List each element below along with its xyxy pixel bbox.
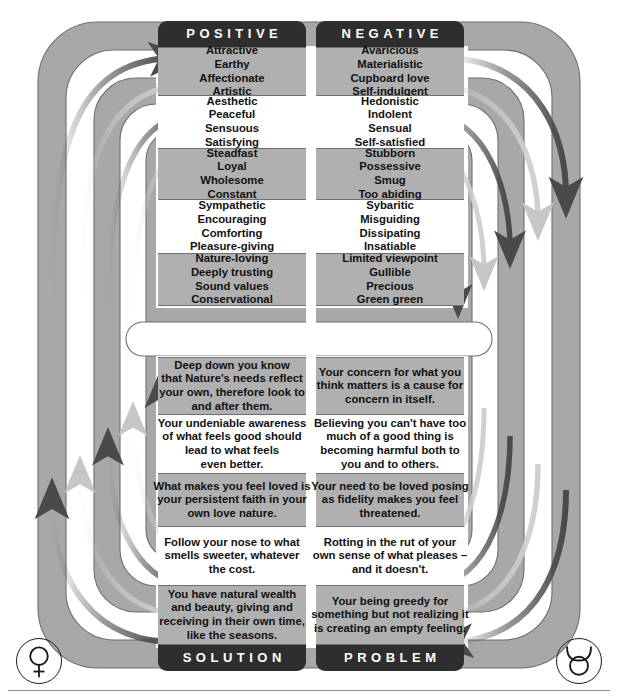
negative-cell-1-text: Hedonistic Indolent Sensual Self-satisfi… xyxy=(355,95,425,149)
positive-cell-0-text: Attractive Earthy Affectionate Artistic xyxy=(199,44,264,98)
solution-cell-0-text: Deep down you know that Nature's needs r… xyxy=(159,359,305,413)
footer-divider xyxy=(8,690,610,691)
positive-cell-2: Steadfast Loyal Wholesome Constant xyxy=(158,148,306,200)
header-tab-negative: NEGATIVE xyxy=(316,21,464,47)
negative-cell-2: Stubborn Possessive Smug Too abiding xyxy=(316,148,464,200)
positive-cell-2-text: Steadfast Loyal Wholesome Constant xyxy=(200,147,263,201)
negative-cell-0: Avaricious Materialistic Cupboard love S… xyxy=(316,47,464,96)
problem-cell-2-text: Your need to be loved posing as fidelity… xyxy=(311,480,468,521)
positive-cell-1-text: Aesthetic Peaceful Sensuous Satisfying xyxy=(205,95,259,149)
negative-cell-4-text: Limited viewpoint Gullible Precious Gree… xyxy=(342,252,437,306)
solution-cell-1-text: Your undeniable awareness of what feels … xyxy=(158,417,307,471)
problem-cell-4: Your being greedy for something but not … xyxy=(316,585,464,645)
negative-cell-1: Hedonistic Indolent Sensual Self-satisfi… xyxy=(316,96,464,148)
header-tab-positive: POSITIVE xyxy=(158,21,306,47)
solution-cell-3-text: Follow your nose to what smells sweeter,… xyxy=(164,536,300,577)
solution-cell-4-text: You have natural wealth and beauty, givi… xyxy=(159,588,305,642)
problem-cell-0-text: Your concern for what you think matters … xyxy=(317,366,463,407)
problem-cell-3: Rotting in the rut of your own sense of … xyxy=(316,527,464,585)
negative-cell-3-text: Sybaritic Misguiding Dissipating Insatia… xyxy=(360,199,421,253)
problem-cell-1-text: Believing you can't have too much of a g… xyxy=(314,417,466,471)
positive-cell-4-text: Nature-loving Deeply trusting Sound valu… xyxy=(191,252,273,306)
header-tab-solution: SOLUTION xyxy=(158,645,306,671)
problem-cell-0: Your concern for what you think matters … xyxy=(316,357,464,415)
problem-cell-3-text: Rotting in the rut of your own sense of … xyxy=(313,536,467,577)
venus-symbol-icon xyxy=(16,638,62,684)
solution-cell-4: You have natural wealth and beauty, givi… xyxy=(158,585,306,645)
problem-cell-4-text: Your being greedy for something but not … xyxy=(311,595,469,636)
negative-cell-3: Sybaritic Misguiding Dissipating Insatia… xyxy=(316,200,464,253)
negative-cell-0-text: Avaricious Materialistic Cupboard love S… xyxy=(350,44,429,98)
problem-cell-1: Believing you can't have too much of a g… xyxy=(316,415,464,473)
cycle-bands xyxy=(0,0,618,700)
taurus-symbol-icon xyxy=(556,638,602,684)
negative-cell-2-text: Stubborn Possessive Smug Too abiding xyxy=(358,147,421,201)
diagram-canvas: POSITIVE NEGATIVE SOLUTION PROBLEM Attra… xyxy=(0,0,618,700)
solution-cell-1: Your undeniable awareness of what feels … xyxy=(158,415,306,473)
solution-cell-3: Follow your nose to what smells sweeter,… xyxy=(158,527,306,585)
positive-cell-4: Nature-loving Deeply trusting Sound valu… xyxy=(158,253,306,306)
problem-cell-2: Your need to be loved posing as fidelity… xyxy=(316,473,464,527)
positive-cell-0: Attractive Earthy Affectionate Artistic xyxy=(158,47,306,96)
header-tab-problem: PROBLEM xyxy=(316,645,464,671)
positive-cell-1: Aesthetic Peaceful Sensuous Satisfying xyxy=(158,96,306,148)
solution-cell-2-text: What makes you feel loved is your persis… xyxy=(154,480,311,521)
positive-cell-3: Sympathetic Encouraging Comforting Pleas… xyxy=(158,200,306,253)
solution-cell-2: What makes you feel loved is your persis… xyxy=(158,473,306,527)
positive-cell-3-text: Sympathetic Encouraging Comforting Pleas… xyxy=(190,199,274,253)
solution-cell-0: Deep down you know that Nature's needs r… xyxy=(158,357,306,415)
negative-cell-4: Limited viewpoint Gullible Precious Gree… xyxy=(316,253,464,306)
